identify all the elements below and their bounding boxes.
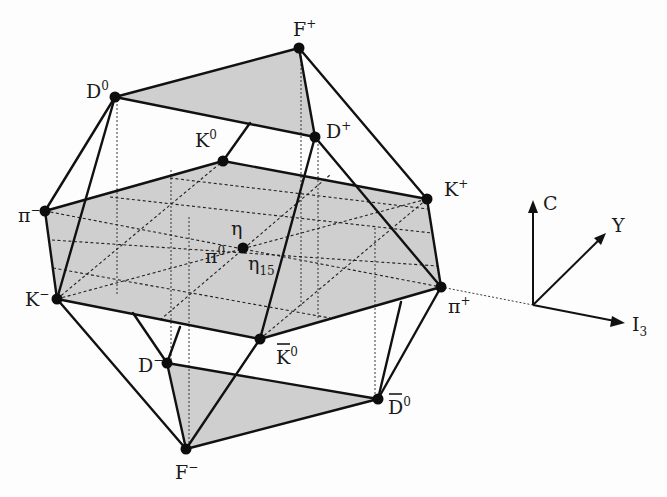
node-pi-minus [40,206,51,217]
top-triangle-face [115,48,315,137]
node-K-zero [218,156,229,167]
axis-label-C: C [543,192,558,214]
label-D-bar-zero: D0 [388,395,411,418]
arrowhead-C-icon [528,200,538,213]
node-D-bar-zero [373,394,384,405]
node-K-bar-zero [255,334,266,345]
node-eta-center [238,243,249,254]
label-F-minus: F− [175,460,198,483]
label-F-plus: F+ [293,17,316,40]
axis-I3 [533,305,620,322]
axis-Y [533,236,603,305]
coordinate-axes: C Y I3 [528,192,647,339]
label-eta: η [231,217,242,239]
label-K-minus: K− [25,287,49,310]
node-pi-plus [436,282,447,293]
label-K-zero: K0 [195,128,217,151]
label-pi-minus: π− [18,203,41,226]
label-K-bar-zero: K0 [276,345,298,368]
diagram-canvas: F+ D0 D+ K0 K+ π− η π0 η15 K− π+ K0 D− D… [0,0,667,497]
node-D-plus [310,132,321,143]
su4-weight-diagram: F+ D0 D+ K0 K+ π− η π0 η15 K− π+ K0 D− D… [0,0,667,497]
arrowhead-I3-icon [610,316,625,327]
label-D-zero: D0 [86,79,109,102]
label-pi-plus: π+ [448,294,471,317]
axis-label-I3: I3 [632,313,647,339]
bottom-triangle-face [167,363,378,449]
node-K-minus [52,294,63,305]
label-D-minus: D− [138,353,163,376]
node-F-minus [181,444,192,455]
label-K-plus: K+ [444,177,468,200]
label-D-plus: D+ [326,119,351,142]
node-K-plus [422,194,433,205]
node-F-plus [294,43,305,54]
axis-label-Y: Y [611,214,625,236]
node-D-zero [110,92,121,103]
